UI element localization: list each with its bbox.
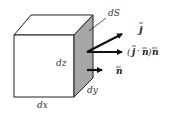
svg-text:n: n [116, 66, 123, 76]
label-dz: dz [56, 58, 67, 68]
svg-text:(: ( [127, 47, 131, 57]
label-vector-j: j [137, 23, 143, 35]
svg-text:·: · [137, 46, 140, 56]
svg-text:j: j [137, 24, 143, 35]
svg-text:n: n [152, 47, 159, 57]
svg-text:j: j [130, 47, 136, 57]
label-dS: dS [108, 8, 120, 18]
diagram-canvas: dS dz dy dx j ( j · n ) n n [0, 0, 171, 113]
cube-diagram: dS dz dy dx j ( j · n ) n n [0, 0, 171, 113]
label-vector-n: n [116, 66, 123, 76]
label-projection: ( j · n ) n [127, 46, 159, 57]
label-dy: dy [87, 85, 99, 95]
label-dx: dx [37, 100, 48, 110]
